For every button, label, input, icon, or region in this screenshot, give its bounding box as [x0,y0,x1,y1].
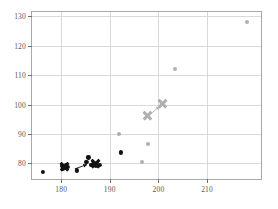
y-axis-tick-label: 130 [14,12,26,21]
arrow-black-x-markers [75,165,87,169]
plot-area: 8090100110120130180190200210 [31,11,262,180]
y-axis-tick-label: 110 [14,71,26,80]
x-axis-tick-label: 180 [55,185,67,194]
x-axis-tick-label: 190 [104,185,116,194]
x-tick-mark [207,179,208,183]
y-axis-tick-label: 80 [18,159,26,168]
y-axis-tick-label: 90 [18,129,26,138]
x-axis-tick-label: 200 [153,185,165,194]
x-tick-mark [110,179,111,183]
y-axis-tick-label: 100 [14,100,26,109]
x-tick-mark [61,179,62,183]
x-tick-mark [158,179,159,183]
arrow-annotation-layer [32,12,261,179]
arrow-gray-x-markers [152,106,159,112]
y-axis-tick-label: 120 [14,41,26,50]
x-axis-tick-label: 210 [201,185,213,194]
scatter-chart: 8090100110120130180190200210 [0,0,278,209]
